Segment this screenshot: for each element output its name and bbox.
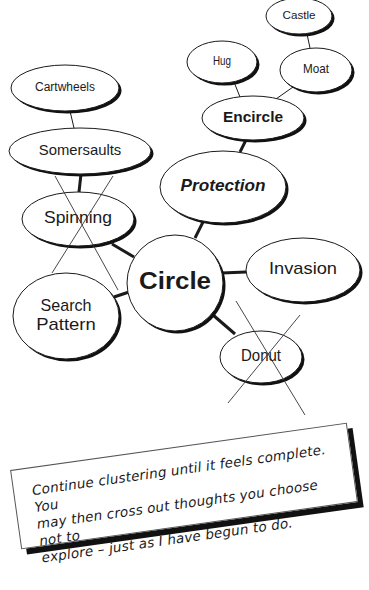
node-encircle: Encircle bbox=[202, 96, 307, 143]
edge-cartwheels-somersaults bbox=[70, 111, 74, 128]
edge-invasion-circle bbox=[222, 272, 246, 273]
node-moat: Moat bbox=[280, 48, 355, 95]
edge-protection-circle bbox=[195, 222, 203, 238]
node-hug: Hug bbox=[187, 41, 260, 86]
edge-circle-donut bbox=[213, 315, 235, 334]
node-label: Castle bbox=[283, 9, 316, 21]
node-somersaults: Somersaults bbox=[9, 128, 154, 177]
node-label: Somersaults bbox=[39, 141, 122, 158]
edge-spinning-circle bbox=[112, 244, 134, 257]
node-label: Protection bbox=[181, 176, 266, 195]
node-label: Search bbox=[41, 296, 92, 315]
node-label: Invasion bbox=[269, 259, 337, 278]
node-label: Cartwheels bbox=[35, 80, 95, 94]
edge-moat-encircle bbox=[276, 87, 293, 99]
node-label: Pattern bbox=[36, 315, 96, 334]
node-donut: Donut bbox=[220, 331, 305, 386]
node-label: Hug bbox=[213, 54, 231, 68]
node-circle: Circle bbox=[127, 235, 226, 334]
node-search: SearchPattern bbox=[13, 273, 122, 362]
node-cartwheels: Cartwheels bbox=[11, 65, 122, 114]
edge-search-circle bbox=[114, 292, 129, 297]
node-label: Circle bbox=[139, 267, 211, 294]
node-label: Encircle bbox=[223, 108, 283, 125]
node-castle: Castle bbox=[266, 0, 335, 37]
edge-somersaults-spinning bbox=[79, 174, 81, 192]
node-protection: Protection bbox=[160, 151, 289, 226]
node-label: Moat bbox=[303, 61, 329, 76]
node-invasion: Invasion bbox=[246, 238, 363, 305]
nodes: CircleCastleHugMoatEncircleCartwheelsSom… bbox=[9, 0, 363, 386]
